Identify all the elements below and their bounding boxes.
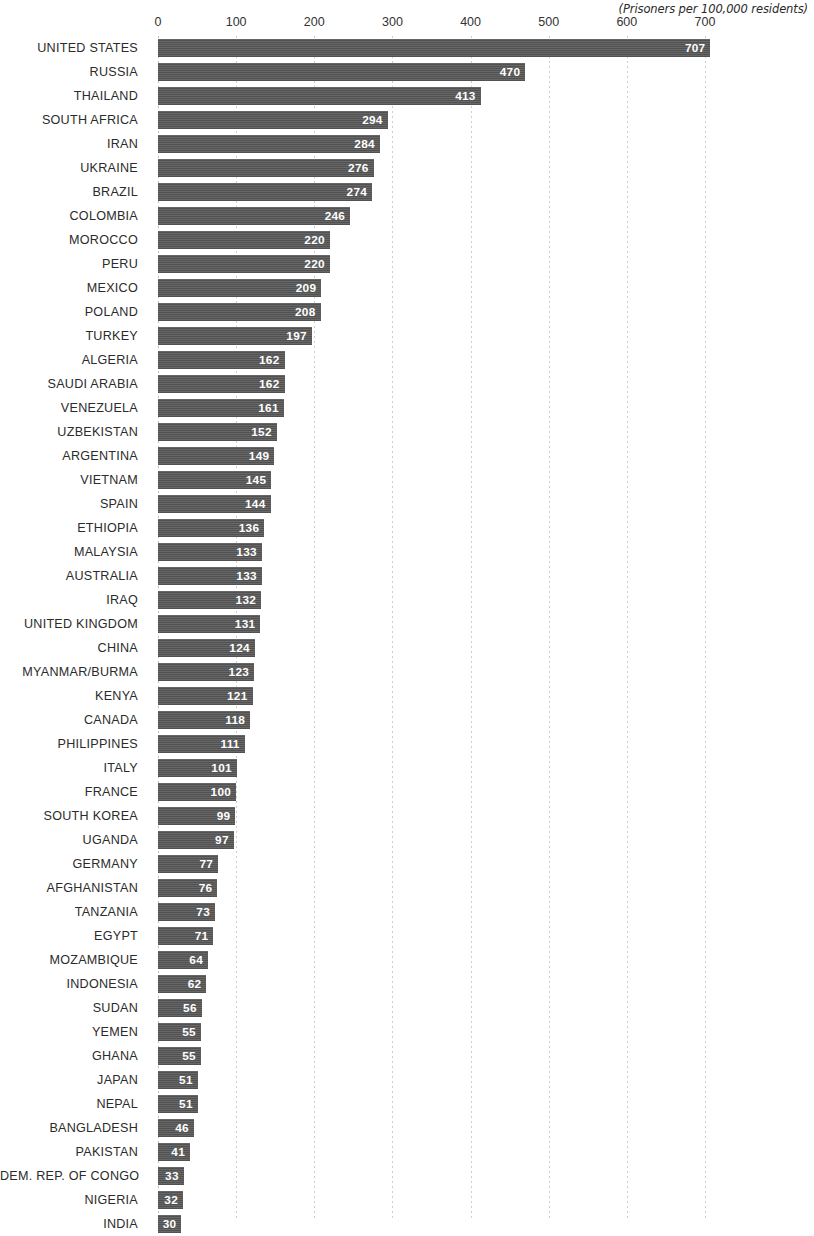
country-label: SPAIN [0, 492, 148, 516]
bar-value-label: 152 [251, 423, 272, 441]
bar-value-label: 55 [182, 1047, 196, 1065]
bar-value-label: 76 [199, 879, 213, 897]
bar-value-label: 162 [259, 351, 280, 369]
chart-row: COLOMBIA246 [0, 204, 814, 228]
value-bar: 99 [158, 807, 235, 825]
country-label: IRAN [0, 132, 148, 156]
value-bar: 133 [158, 543, 262, 561]
value-bar: 144 [158, 495, 271, 513]
chart-row: TURKEY197 [0, 324, 814, 348]
chart-row: UNITED STATES707 [0, 36, 814, 60]
country-label: PHILIPPINES [0, 732, 148, 756]
chart-subtitle: (Prisoners per 100,000 residents) [619, 2, 808, 16]
chart-row: MALAYSIA133 [0, 540, 814, 564]
country-label: IRAQ [0, 588, 148, 612]
country-label: NEPAL [0, 1092, 148, 1116]
bar-value-label: 413 [455, 87, 476, 105]
bar-value-label: 124 [229, 639, 250, 657]
country-label: ARGENTINA [0, 444, 148, 468]
chart-row: DEM. REP. OF CONGO33 [0, 1164, 814, 1188]
chart-row: THAILAND413 [0, 84, 814, 108]
country-label: ITALY [0, 756, 148, 780]
value-bar: 73 [158, 903, 215, 921]
chart-row: UZBEKISTAN152 [0, 420, 814, 444]
country-label: EGYPT [0, 924, 148, 948]
country-label: MYANMAR/BURMA [0, 660, 148, 684]
chart-row: MOROCCO220 [0, 228, 814, 252]
bar-value-label: 32 [164, 1191, 178, 1209]
bar-value-label: 33 [165, 1167, 179, 1185]
country-label: BRAZIL [0, 180, 148, 204]
bar-value-label: 197 [286, 327, 307, 345]
chart-row: INDIA30 [0, 1212, 814, 1236]
chart-row: GERMANY77 [0, 852, 814, 876]
value-bar: 76 [158, 879, 217, 897]
value-bar: 132 [158, 591, 261, 609]
bar-value-label: 123 [229, 663, 250, 681]
value-bar: 55 [158, 1023, 201, 1041]
bar-value-label: 136 [239, 519, 260, 537]
chart-row: VIETNAM145 [0, 468, 814, 492]
value-bar: 118 [158, 711, 250, 729]
bar-value-label: 162 [259, 375, 280, 393]
chart-row: YEMEN55 [0, 1020, 814, 1044]
x-axis-tick-label: 700 [695, 15, 716, 29]
chart-row: PERU220 [0, 252, 814, 276]
value-bar: 51 [158, 1071, 198, 1089]
country-label: INDONESIA [0, 972, 148, 996]
country-label: ETHIOPIA [0, 516, 148, 540]
country-label: PERU [0, 252, 148, 276]
value-bar: 64 [158, 951, 208, 969]
bar-rows: UNITED STATES707RUSSIA470THAILAND413SOUT… [0, 36, 814, 1236]
country-label: UNITED KINGDOM [0, 612, 148, 636]
bar-value-label: 149 [249, 447, 270, 465]
bar-value-label: 97 [215, 831, 229, 849]
chart-row: SPAIN144 [0, 492, 814, 516]
chart-row: MYANMAR/BURMA123 [0, 660, 814, 684]
chart-row: POLAND208 [0, 300, 814, 324]
chart-row: NIGERIA32 [0, 1188, 814, 1212]
bar-value-label: 284 [354, 135, 375, 153]
bar-value-label: 133 [236, 543, 257, 561]
value-bar: 276 [158, 159, 374, 177]
chart-row: AUSTRALIA133 [0, 564, 814, 588]
country-label: GHANA [0, 1044, 148, 1068]
value-bar: 123 [158, 663, 254, 681]
x-axis-tick-label: 200 [304, 15, 325, 29]
country-label: MEXICO [0, 276, 148, 300]
value-bar: 77 [158, 855, 218, 873]
country-label: UNITED STATES [0, 36, 148, 60]
chart-row: GHANA55 [0, 1044, 814, 1068]
chart-row: CANADA118 [0, 708, 814, 732]
country-label: INDIA [0, 1212, 148, 1236]
country-label: MOZAMBIQUE [0, 948, 148, 972]
value-bar: 100 [158, 783, 236, 801]
chart-row: SOUTH AFRICA294 [0, 108, 814, 132]
bar-value-label: 220 [304, 231, 325, 249]
bar-value-label: 100 [211, 783, 232, 801]
value-bar: 51 [158, 1095, 198, 1113]
country-label: VIETNAM [0, 468, 148, 492]
bar-value-label: 51 [179, 1095, 193, 1113]
country-label: NIGERIA [0, 1188, 148, 1212]
x-axis-tick-label: 500 [538, 15, 559, 29]
bar-value-label: 208 [295, 303, 316, 321]
value-bar: 46 [158, 1119, 194, 1137]
value-bar: 220 [158, 255, 330, 273]
bar-value-label: 246 [325, 207, 346, 225]
bar-value-label: 121 [227, 687, 248, 705]
chart-row: SOUTH KOREA99 [0, 804, 814, 828]
value-bar: 131 [158, 615, 260, 633]
value-bar: 413 [158, 87, 481, 105]
chart-row: UNITED KINGDOM131 [0, 612, 814, 636]
country-label: TANZANIA [0, 900, 148, 924]
chart-row: SAUDI ARABIA162 [0, 372, 814, 396]
bar-value-label: 220 [304, 255, 325, 273]
country-label: CANADA [0, 708, 148, 732]
value-bar: 284 [158, 135, 380, 153]
chart-row: ITALY101 [0, 756, 814, 780]
chart-row: UGANDA97 [0, 828, 814, 852]
bar-value-label: 73 [196, 903, 210, 921]
x-axis-tick-label: 100 [226, 15, 247, 29]
chart-row: BANGLADESH46 [0, 1116, 814, 1140]
